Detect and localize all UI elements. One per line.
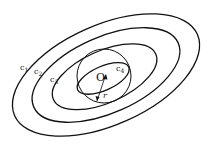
- radius-label: r: [103, 91, 108, 100]
- label-c4: c4: [116, 64, 124, 74]
- label-c3: c3: [50, 75, 58, 85]
- label-c1: c1: [20, 63, 28, 73]
- ellipse-diagram: O r c1 c2 c3 c4: [0, 0, 211, 151]
- center-label: O: [96, 71, 105, 84]
- label-c2: c2: [34, 67, 42, 77]
